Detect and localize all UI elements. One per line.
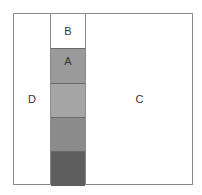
segment-column: B A [50, 14, 86, 184]
segment-b: B [51, 14, 85, 48]
segment-a-label: A [64, 55, 71, 67]
diagram-frame: D B A C [13, 13, 193, 185]
region-d: D [14, 14, 50, 184]
region-c-label: C [136, 93, 144, 105]
region-d-label: D [28, 93, 36, 105]
region-c: C [86, 14, 193, 184]
segment-a: A [51, 48, 85, 83]
segment-b-label: B [64, 25, 71, 37]
segment-4 [51, 117, 85, 151]
segment-3 [51, 83, 85, 117]
segment-5 [51, 151, 85, 186]
